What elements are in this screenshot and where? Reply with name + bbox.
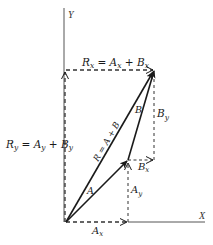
y-axis-label: Y — [68, 9, 75, 20]
vector-a-label: A — [86, 185, 94, 196]
resultant-r-arrow — [66, 72, 153, 222]
vector-b-arrow — [128, 71, 154, 160]
resultant-label: R = A + B — [91, 120, 122, 164]
vector-b-label: B — [134, 104, 142, 115]
rx-equation: Rx = Ax + Bx — [81, 56, 150, 70]
ax-label: Ax — [91, 225, 103, 238]
vector-diagram: Y X Rx = Ax + Bx Ry = Ay + By R = A + B … — [0, 0, 213, 245]
x-axis-label: X — [198, 210, 206, 221]
bx-label: Bx — [137, 161, 149, 174]
ay-label: Ay — [130, 184, 143, 198]
by-label: By — [156, 107, 170, 122]
ry-equation: Ry = Ay + By — [5, 138, 74, 152]
